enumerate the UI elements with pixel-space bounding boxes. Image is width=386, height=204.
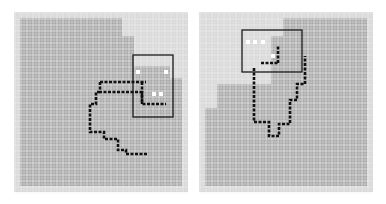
grid-map-left-canvas — [14, 12, 188, 194]
light-region — [199, 84, 217, 108]
white-marker — [136, 70, 140, 74]
white-marker — [159, 92, 163, 96]
white-marker — [152, 92, 156, 96]
white-marker — [271, 54, 275, 58]
white-marker — [253, 40, 257, 44]
grid-map-right-canvas — [199, 12, 373, 194]
white-marker — [164, 70, 168, 74]
white-marker — [246, 40, 250, 44]
white-marker — [261, 40, 265, 44]
grid-map-left — [14, 12, 188, 194]
grid-map-right — [199, 12, 373, 194]
